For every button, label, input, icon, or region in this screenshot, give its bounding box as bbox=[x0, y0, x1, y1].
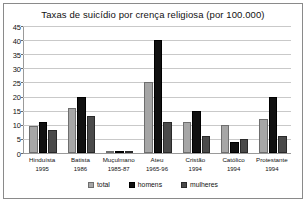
bar-group bbox=[62, 26, 100, 153]
bar-mulheres bbox=[48, 130, 57, 153]
category-year: 1994 bbox=[176, 165, 214, 174]
bar-homens bbox=[154, 40, 163, 153]
bar-homens bbox=[115, 151, 124, 153]
bars-layer bbox=[24, 26, 291, 153]
bar-mulheres bbox=[125, 151, 134, 153]
x-tick-label: Batista1986 bbox=[61, 156, 99, 174]
category-name: Ateu bbox=[151, 156, 164, 163]
chart-title: Taxas de suicídio por crença religiosa (… bbox=[4, 9, 302, 20]
x-tick-label: Ateu1965-96 bbox=[138, 156, 176, 174]
legend-swatch-mulheres bbox=[181, 182, 187, 188]
bar-mulheres bbox=[163, 122, 172, 153]
y-tick-label: 10 bbox=[5, 122, 21, 130]
category-year: 1985-87 bbox=[100, 165, 138, 174]
chart-figure: Taxas de suicídio por crença religiosa (… bbox=[3, 3, 303, 199]
bar-homens bbox=[39, 122, 48, 153]
y-tick-label: 25 bbox=[5, 80, 21, 88]
bar-homens bbox=[269, 97, 278, 153]
y-tick-label: 45 bbox=[5, 24, 21, 32]
legend-item-homens[interactable]: homens bbox=[129, 181, 162, 188]
legend-swatch-homens bbox=[129, 182, 135, 188]
y-tick-label: 20 bbox=[5, 94, 21, 102]
x-tick-label: Muçulmano1985-87 bbox=[100, 156, 138, 174]
category-year: 1995 bbox=[23, 165, 61, 174]
bar-mulheres bbox=[240, 139, 249, 153]
legend-swatch-total bbox=[88, 182, 94, 188]
bar-homens bbox=[77, 97, 86, 153]
category-name: Batista bbox=[71, 156, 90, 163]
legend-item-mulheres[interactable]: mulheres bbox=[181, 181, 218, 188]
bar-homens bbox=[192, 111, 201, 153]
bar-total bbox=[183, 122, 192, 153]
legend-item-total[interactable]: total bbox=[88, 181, 110, 188]
bar-group bbox=[24, 26, 62, 153]
legend-label: homens bbox=[138, 181, 162, 188]
y-tick-label: 30 bbox=[5, 66, 21, 74]
category-year: 1986 bbox=[61, 165, 99, 174]
legend-label: mulheres bbox=[190, 181, 218, 188]
bar-group bbox=[139, 26, 177, 153]
plot-area bbox=[23, 26, 291, 154]
y-tick-label: 5 bbox=[5, 136, 21, 144]
bar-total bbox=[68, 108, 77, 153]
category-name: Hinduísta bbox=[29, 156, 55, 163]
category-year: 1994 bbox=[214, 165, 252, 174]
x-tick-label: Cristão1994 bbox=[176, 156, 214, 174]
y-tick-label: 0 bbox=[5, 151, 21, 159]
bar-mulheres bbox=[87, 116, 96, 153]
x-tick-label: Protestante1994 bbox=[253, 156, 291, 174]
bar-mulheres bbox=[202, 136, 211, 153]
category-name: Católico bbox=[222, 156, 244, 163]
x-axis-labels: Hinduísta1995Batista1986Muçulmano1985-87… bbox=[23, 156, 291, 178]
legend-label: total bbox=[97, 181, 110, 188]
bar-group bbox=[215, 26, 253, 153]
chart-legend: totalhomensmulheres bbox=[4, 181, 302, 188]
x-tick-label: Católico1994 bbox=[214, 156, 252, 174]
bar-group bbox=[177, 26, 215, 153]
bar-total bbox=[106, 151, 115, 153]
category-year: 1965-96 bbox=[138, 165, 176, 174]
category-year: 1994 bbox=[253, 165, 291, 174]
bar-group bbox=[254, 26, 292, 153]
y-tick-label: 40 bbox=[5, 38, 21, 46]
bar-group bbox=[101, 26, 139, 153]
category-name: Muçulmano bbox=[103, 156, 135, 163]
bar-total bbox=[259, 119, 268, 153]
y-tick-label: 35 bbox=[5, 52, 21, 60]
bar-total bbox=[221, 125, 230, 153]
bar-total bbox=[144, 82, 153, 153]
category-name: Protestante bbox=[256, 156, 288, 163]
y-axis: 051015202530354045 bbox=[4, 26, 21, 154]
bar-total bbox=[29, 126, 38, 153]
bar-homens bbox=[230, 142, 239, 153]
x-tick-label: Hinduísta1995 bbox=[23, 156, 61, 174]
bar-mulheres bbox=[278, 136, 287, 153]
category-name: Cristão bbox=[185, 156, 205, 163]
y-tick-label: 15 bbox=[5, 108, 21, 116]
